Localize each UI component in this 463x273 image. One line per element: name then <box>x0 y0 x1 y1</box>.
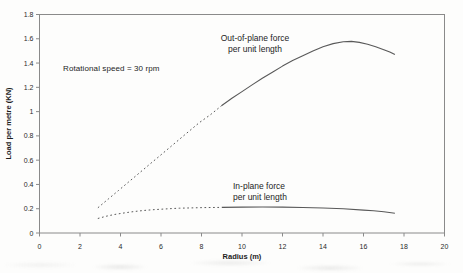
x-tick-label: 8 <box>200 243 204 250</box>
x-tick-label: 18 <box>400 243 408 250</box>
x-tick-label: 0 <box>38 243 42 250</box>
x-tick-label: 16 <box>360 243 368 250</box>
x-tick-label: 20 <box>441 243 449 250</box>
y-tick-label: 1.4 <box>24 60 34 67</box>
in-plane-curve-solid <box>222 207 395 213</box>
chart-figure: 0246810121416182000.20.40.60.811.21.41.6… <box>0 0 463 273</box>
x-tick-label: 12 <box>279 243 287 250</box>
x-tick-label: 2 <box>78 243 82 250</box>
series-label-out-of-plane: Out-of-plane force per unit length <box>201 33 309 55</box>
x-tick-label: 14 <box>319 243 327 250</box>
x-tick-label: 4 <box>119 243 123 250</box>
y-axis-title: Load per metre (KN) <box>3 24 14 224</box>
in-plane-curve-dotted <box>98 207 222 218</box>
y-tick-label: 0.6 <box>24 157 34 164</box>
y-tick-label: 0.4 <box>24 181 34 188</box>
x-tick-label: 10 <box>238 243 246 250</box>
y-tick-label: 1.8 <box>24 11 34 18</box>
y-tick-label: 0.2 <box>24 205 34 212</box>
y-tick-label: 0 <box>30 230 34 237</box>
x-tick-label: 6 <box>159 243 163 250</box>
y-tick-label: 1 <box>30 108 34 115</box>
y-tick-label: 0.8 <box>24 132 34 139</box>
annotation-rotational-speed: Rotational speed = 30 rpm <box>63 64 160 73</box>
scan-artifact <box>0 257 463 273</box>
y-tick-label: 1.2 <box>24 84 34 91</box>
y-tick-label: 1.6 <box>24 35 34 42</box>
series-label-in-plane: In-plane force per unit length <box>233 181 287 203</box>
out-of-plane-curve-dotted <box>98 106 222 208</box>
